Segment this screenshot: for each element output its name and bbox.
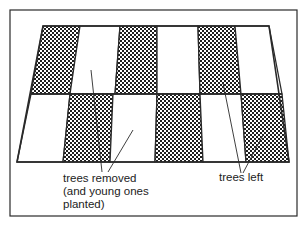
label-trees-left: trees left [219, 171, 264, 183]
coppice-diagram: trees removed (and young ones planted) t… [0, 0, 306, 227]
trees-removed-strip-bottom-4 [200, 94, 246, 162]
trees-removed-strip-bottom-2 [110, 94, 157, 162]
label-line: trees removed [63, 172, 137, 184]
woodland-plot [17, 26, 289, 162]
label-line: planted) [63, 198, 105, 210]
trees-left-strip-top-4 [198, 26, 241, 94]
label-line: trees left [219, 171, 264, 183]
label-line: (and young ones [63, 185, 149, 197]
trees-left-strip-top-2 [115, 26, 157, 94]
trees-left-strip-bottom-5 [241, 94, 289, 162]
trees-left-strip-bottom-1 [63, 94, 113, 162]
trees-removed-strip-top-3 [157, 26, 200, 94]
trees-left-strip-bottom-3 [155, 94, 203, 162]
